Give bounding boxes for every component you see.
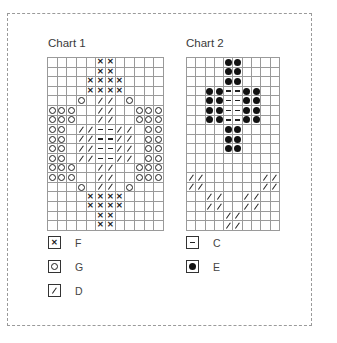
open-circle-icon [48,164,58,174]
grid-cell [215,212,224,222]
dash-icon [233,106,242,116]
open-circle-icon [154,173,164,183]
filled-dot-icon [243,116,252,126]
grid-cell [206,77,215,87]
slash-icon [77,144,87,154]
cross-icon [87,202,97,212]
grid-cell [154,68,164,78]
slash-icon [196,173,205,183]
dash-icon [233,87,242,97]
open-circle-icon [154,144,164,154]
slash-icon [116,135,126,145]
grid-cell [135,212,145,222]
grid-cell [154,183,164,193]
grid-cell [135,135,145,145]
grid-cell [261,135,270,145]
grid-cell [206,173,215,183]
slash-icon [87,144,97,154]
open-circle-icon [145,106,155,116]
grid-cell [67,154,77,164]
slash-icon [106,164,116,174]
dash-icon [96,154,106,164]
grid-cell [233,154,242,164]
filled-dot-icon [233,135,242,145]
grid-cell [224,202,233,212]
grid-cell [48,96,58,106]
slash-icon [215,192,224,202]
grid-cell [77,192,87,202]
grid-cell [77,87,87,97]
grid-cell [224,183,233,193]
open-circle-icon [48,106,58,116]
grid-cell [243,125,252,135]
grid-cell [87,106,97,116]
grid-cell [125,221,135,231]
open-circle-icon [58,125,68,135]
cross-icon [106,221,116,231]
slash-icon [96,173,106,183]
grid-cell [243,221,252,231]
grid-cell [67,144,77,154]
grid-cell [261,125,270,135]
grid-cell [187,135,196,145]
slash-icon [87,154,97,164]
grid-cell [196,77,205,87]
slash-icon [116,154,126,164]
grid-cell [187,77,196,87]
grid-cell [58,212,68,222]
slash-icon [243,192,252,202]
open-circle-icon [67,106,77,116]
dash-icon [224,106,233,116]
grid-cell [196,164,205,174]
slash-icon [233,212,242,222]
grid-cell [252,173,261,183]
grid-cell [116,58,126,68]
legend-item-g: G [48,260,83,273]
grid-cell [206,183,215,193]
grid-cell [252,68,261,78]
grid-cell [215,144,224,154]
grid-cell [206,164,215,174]
slash-icon [125,154,135,164]
grid-cell [233,192,242,202]
grid-cell [243,183,252,193]
filled-dot-icon [233,58,242,68]
open-circle-icon [58,173,68,183]
grid-cell [67,58,77,68]
slash-icon [106,106,116,116]
grid-cell [154,212,164,222]
grid-cell [135,183,145,193]
dash-icon [106,125,116,135]
grid-cell [261,154,270,164]
grid-cell [58,192,68,202]
legend-label: E [213,261,220,273]
filled-dot-icon [252,116,261,126]
grid-cell [261,192,270,202]
grid-cell [187,125,196,135]
open-circle-icon [58,106,68,116]
grid-cell [58,68,68,78]
grid-cell [87,183,97,193]
grid-cell [116,116,126,126]
grid-cell [233,202,242,212]
grid-cell [87,116,97,126]
dash-icon [96,135,106,145]
grid-cell [154,221,164,231]
grid-cell [48,192,58,202]
open-circle-icon [48,135,58,145]
grid-cell [187,164,196,174]
grid-cell [271,154,280,164]
dash-icon [224,96,233,106]
grid-cell [187,154,196,164]
slash-icon [224,221,233,231]
grid-cell [67,77,77,87]
dash-icon [106,135,116,145]
grid-cell [48,202,58,212]
grid-cell [187,212,196,222]
grid-cell [196,154,205,164]
grid-cell [196,135,205,145]
grid-cell [252,154,261,164]
grid-cell [252,221,261,231]
cross-icon [106,87,116,97]
grid-cell [187,106,196,116]
